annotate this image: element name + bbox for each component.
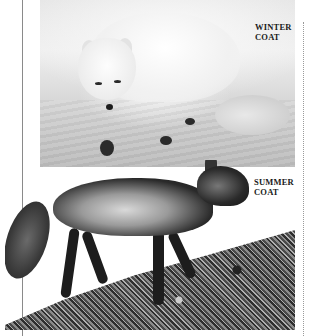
winter-label-line2: COAT bbox=[255, 32, 292, 42]
fox-paw bbox=[160, 136, 172, 145]
fox-paw bbox=[185, 118, 195, 125]
summer-label-line1: SUMMER bbox=[254, 177, 294, 187]
fox-head bbox=[78, 38, 136, 100]
fox-leg bbox=[60, 228, 80, 299]
summer-coat-label: SUMMER COAT bbox=[254, 177, 294, 197]
fox-body bbox=[53, 178, 213, 236]
winter-label-line1: WINTER bbox=[255, 22, 292, 32]
right-dotted-rule bbox=[303, 22, 304, 336]
winter-coat-label: WINTER COAT bbox=[255, 22, 292, 42]
fox-eye bbox=[95, 82, 102, 85]
fox-nose bbox=[106, 104, 113, 110]
summer-label-line2: COAT bbox=[254, 187, 294, 197]
summer-coat-photo bbox=[5, 160, 295, 330]
rocky-ground bbox=[5, 230, 295, 330]
fox-eye bbox=[114, 80, 121, 83]
fox-paw bbox=[100, 140, 114, 156]
fox-leg bbox=[81, 230, 109, 285]
fox-head bbox=[197, 166, 249, 206]
fox-leg bbox=[153, 230, 164, 305]
fox-tail bbox=[215, 95, 290, 135]
fox-tail bbox=[5, 196, 58, 284]
